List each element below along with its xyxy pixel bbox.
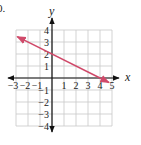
coordinate-plane: −3−2−1123454321−1−2−3−4 x y <box>0 0 141 145</box>
svg-text:1: 1 <box>44 61 49 72</box>
svg-text:−2: −2 <box>38 97 49 108</box>
data-line <box>17 37 109 83</box>
svg-text:−1: −1 <box>38 85 49 96</box>
svg-text:2: 2 <box>74 80 79 91</box>
svg-text:1: 1 <box>62 80 67 91</box>
svg-text:4: 4 <box>44 25 49 36</box>
svg-text:−3: −3 <box>8 80 19 91</box>
svg-text:−3: −3 <box>38 109 49 120</box>
x-axis-label: x <box>124 70 131 84</box>
svg-text:−4: −4 <box>38 121 49 132</box>
axes <box>8 18 119 132</box>
svg-text:4: 4 <box>98 80 103 91</box>
graph-figure: 0. −3−2−1123454321−1−2−3−4 x y <box>0 0 141 145</box>
svg-text:5: 5 <box>110 80 115 91</box>
problem-number: 0. <box>0 2 5 14</box>
svg-text:3: 3 <box>86 80 91 91</box>
svg-text:−2: −2 <box>20 80 31 91</box>
y-axis-label: y <box>48 4 55 18</box>
svg-text:3: 3 <box>44 37 49 48</box>
